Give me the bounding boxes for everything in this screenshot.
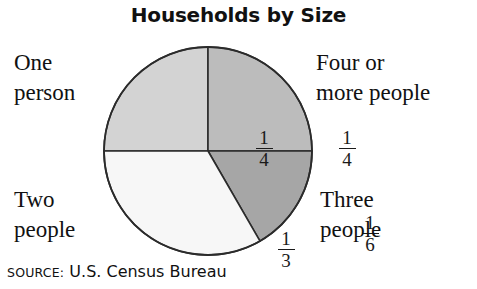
fraction-numerator: 1 <box>332 128 362 147</box>
slice-label-line1: Four or <box>316 50 384 75</box>
slice-label-one-person: One person <box>14 48 75 108</box>
slice-value-two-people: 1 3 <box>271 229 301 271</box>
fraction-denominator: 3 <box>271 251 301 270</box>
source-note: SOURCE: U.S. Census Bureau <box>7 262 227 281</box>
source-text: U.S. Census Bureau <box>69 262 226 281</box>
slice-label-two-people: Two people <box>14 185 75 245</box>
pie-chart: 1 4 1 4 1 3 1 6 <box>103 43 313 259</box>
slice-label-line2: people <box>14 215 75 245</box>
slice-value-four-or-more-people: 1 4 <box>332 128 362 170</box>
slice-label-line2: people <box>320 215 381 245</box>
fraction-numerator: 1 <box>271 229 301 248</box>
slice-label-three-people: Three people <box>320 185 381 245</box>
pie-slice-one-person[interactable] <box>104 47 208 151</box>
slice-label-four-or-more-people: Four or more people <box>316 48 430 108</box>
slice-value-one-person: 1 4 <box>249 128 279 170</box>
fraction-denominator: 4 <box>249 150 279 169</box>
fraction-denominator: 4 <box>332 150 362 169</box>
slice-label-line1: One <box>14 50 52 75</box>
slice-label-line1: Two <box>14 187 55 212</box>
households-by-size-pie-figure: Households by Size 1 4 1 4 1 <box>0 0 477 289</box>
page-title: Households by Size <box>0 3 477 27</box>
fraction-numerator: 1 <box>249 128 279 147</box>
pie-chart-svg <box>103 43 313 259</box>
slice-label-line2: more people <box>316 78 430 108</box>
slice-label-line1: Three <box>320 187 374 212</box>
slice-label-line2: person <box>14 78 75 108</box>
source-prefix: SOURCE: <box>7 265 64 280</box>
